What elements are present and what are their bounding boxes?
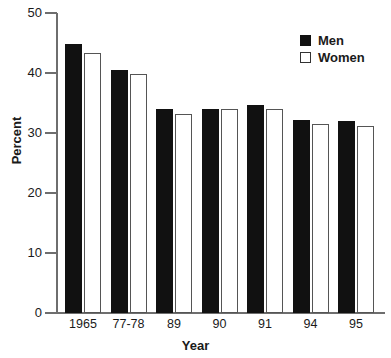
y-axis-tick	[45, 252, 57, 254]
bar-group	[111, 13, 147, 313]
open-square-icon	[300, 52, 311, 63]
legend-label-men: Men	[318, 34, 344, 47]
y-axis-tick	[45, 192, 57, 194]
bar-men	[111, 70, 128, 313]
bar-group	[65, 13, 101, 313]
bar-men	[338, 121, 355, 313]
y-axis-title: Percent	[9, 101, 24, 181]
bar-men	[202, 109, 219, 313]
y-axis-tick	[45, 132, 57, 134]
legend-item-men: Men	[300, 33, 390, 48]
bar-women	[357, 126, 374, 313]
x-axis-title: Year	[0, 338, 391, 353]
bar-women	[130, 74, 147, 313]
bar-group	[247, 13, 283, 313]
x-axis-tick-label: 95	[324, 318, 388, 331]
bar-men	[247, 105, 264, 313]
bar-women	[221, 109, 238, 313]
bar-women	[84, 53, 101, 313]
y-axis-tick	[45, 12, 57, 14]
bar-women	[312, 124, 329, 313]
y-axis-tick-label: 30	[2, 126, 42, 139]
legend: Men Women	[300, 33, 390, 67]
y-axis-tick	[45, 72, 57, 74]
bar-group	[202, 13, 238, 313]
bar-chart: Percent 01020304050 196577-788990919495 …	[0, 0, 391, 358]
filled-square-icon	[300, 35, 311, 46]
bar-men	[65, 44, 82, 313]
y-axis-tick-label: 10	[2, 246, 42, 259]
y-axis-tick	[45, 312, 57, 314]
bar-men	[293, 120, 310, 313]
bar-group	[156, 13, 192, 313]
y-axis-tick-label: 0	[2, 306, 42, 319]
y-axis-tick-label: 50	[2, 6, 42, 19]
legend-label-women: Women	[318, 51, 365, 64]
y-axis-tick-label: 20	[2, 186, 42, 199]
bar-women	[175, 114, 192, 313]
legend-item-women: Women	[300, 50, 390, 65]
bar-women	[266, 109, 283, 313]
bar-men	[156, 109, 173, 313]
y-axis-tick-label: 40	[2, 66, 42, 79]
